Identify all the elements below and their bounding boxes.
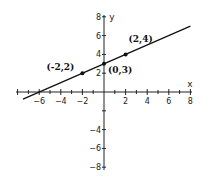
y-tick-label: −6 — [89, 144, 101, 153]
y-tick-label: −4 — [89, 126, 101, 135]
point-label: (2,4) — [129, 34, 153, 45]
x-tick-label: 2 — [123, 97, 128, 106]
y-tick-label: 6 — [96, 32, 101, 41]
y-tick-label: 4 — [96, 50, 101, 59]
coordinate-plane: −6−4−224688642−4−6−8xy(-2,2)(0,3)(2,4) — [0, 0, 205, 183]
data-point — [80, 71, 84, 75]
x-axis-label: x — [187, 79, 193, 89]
x-tick-label: 4 — [145, 97, 150, 106]
y-tick-label: 8 — [96, 13, 101, 22]
data-point — [102, 62, 106, 66]
data-point — [124, 52, 128, 56]
y-tick-label: 2 — [96, 69, 101, 78]
x-tick-label: −4 — [55, 97, 67, 106]
y-tick-label: −8 — [89, 163, 101, 172]
point-label: (0,3) — [108, 65, 132, 76]
point-label: (-2,2) — [46, 62, 74, 73]
x-tick-label: −2 — [77, 97, 89, 106]
x-tick-label: −6 — [33, 97, 45, 106]
y-axis-label: y — [109, 12, 115, 22]
x-tick-label: 6 — [166, 97, 171, 106]
x-tick-label: 8 — [188, 97, 193, 106]
